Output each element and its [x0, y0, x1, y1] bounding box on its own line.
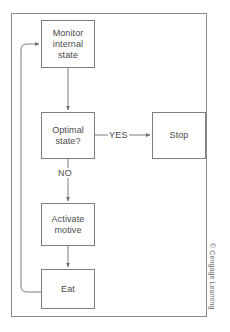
node-stop: Stop	[152, 112, 206, 159]
node-activate-motive: Activate motive	[41, 203, 95, 246]
node-optimal-state: Optimal state?	[41, 112, 95, 159]
node-monitor-internal-state: Monitor internal state	[41, 20, 95, 68]
copyright-credit: © Cengage Learning	[208, 243, 216, 323]
flowchart-connectors	[0, 0, 230, 332]
figure-canvas: Monitor internal state Optimal state? St…	[0, 0, 230, 332]
edge-label-yes: YES	[108, 130, 129, 140]
edge-label-no: NO	[57, 168, 73, 178]
edge-eat-to-monitor-loop	[21, 44, 41, 292]
node-eat: Eat	[41, 269, 95, 309]
